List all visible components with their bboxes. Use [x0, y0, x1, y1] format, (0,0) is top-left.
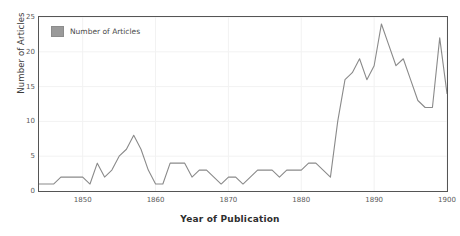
x-tick-label: 1870 — [208, 196, 248, 204]
legend-label: Number of Articles — [70, 27, 140, 36]
legend: Number of Articles — [51, 26, 140, 37]
series-line-number-of-articles — [39, 24, 447, 184]
x-tick-label: 1900 — [427, 196, 460, 204]
x-tick-label: 1880 — [281, 196, 321, 204]
plot-area: Number of Articles — [38, 16, 448, 192]
line-chart: Number of Articles 0510152025 1850186018… — [0, 0, 460, 236]
x-axis-title: Year of Publication — [0, 214, 460, 224]
legend-swatch-icon — [51, 26, 64, 37]
x-tick-label: 1850 — [63, 196, 103, 204]
series-canvas — [39, 17, 447, 191]
x-tick-label: 1890 — [354, 196, 394, 204]
x-tick-label: 1860 — [136, 196, 176, 204]
plot-inner — [39, 17, 447, 191]
gridlines — [39, 17, 447, 191]
